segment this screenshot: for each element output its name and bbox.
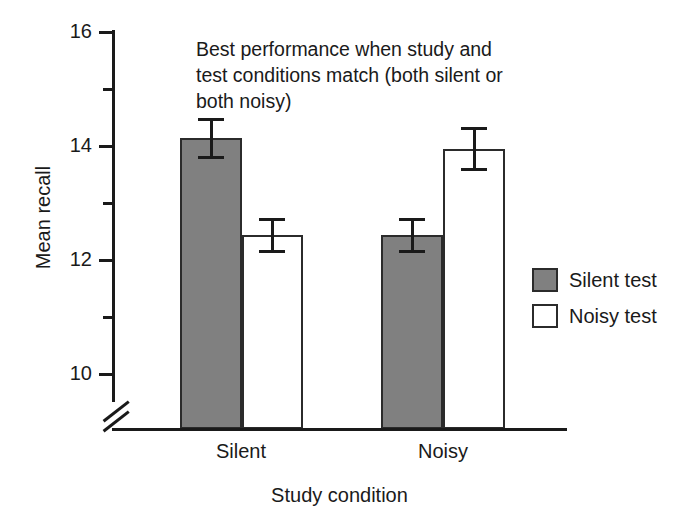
legend-item-noisy-test: Noisy test xyxy=(532,299,657,333)
legend-swatch-silent-test xyxy=(532,268,558,292)
legend-item-silent-test: Silent test xyxy=(532,263,657,297)
bar-chart-figure: Best performance when study and test con… xyxy=(0,0,684,526)
legend-label-noisy-test: Noisy test xyxy=(569,305,657,328)
legend-swatch-noisy-test xyxy=(532,304,558,328)
x-tick-label-silent: Silent xyxy=(161,440,321,463)
error-bar-noisy-study-noisy-test xyxy=(461,127,487,171)
chart-legend: Silent test Noisy test xyxy=(532,263,657,335)
legend-label-silent-test: Silent test xyxy=(569,269,657,292)
chart-annotation: Best performance when study and test con… xyxy=(196,36,526,114)
y-tick-16 xyxy=(99,31,113,34)
annotation-line-2: test conditions match (both silent or xyxy=(196,62,526,88)
annotation-line-3: both noisy) xyxy=(196,88,526,114)
x-axis-line xyxy=(112,428,567,431)
annotation-line-1: Best performance when study and xyxy=(196,36,526,62)
error-bar-silent-study-noisy-test xyxy=(259,218,285,253)
y-tick-12 xyxy=(99,259,113,262)
x-tick-label-noisy: Noisy xyxy=(363,440,523,463)
bar-noisy-study-silent-test xyxy=(381,235,443,429)
bar-silent-study-noisy-test xyxy=(242,235,303,429)
y-tick-minor-11 xyxy=(103,316,113,319)
y-tick-minor-13 xyxy=(103,202,113,205)
y-tick-label-10: 10 xyxy=(32,363,92,383)
x-axis-title: Study condition xyxy=(112,484,567,507)
error-bar-silent-study-silent-test xyxy=(198,118,224,159)
error-bar-noisy-study-silent-test xyxy=(399,218,425,253)
bar-noisy-study-noisy-test xyxy=(443,149,505,429)
y-tick-label-16: 16 xyxy=(32,21,92,41)
y-axis-title: Mean recall xyxy=(32,138,55,298)
y-tick-minor-15 xyxy=(103,88,113,91)
y-tick-14 xyxy=(99,145,113,148)
y-tick-10 xyxy=(99,373,113,376)
bar-silent-study-silent-test xyxy=(180,138,242,429)
